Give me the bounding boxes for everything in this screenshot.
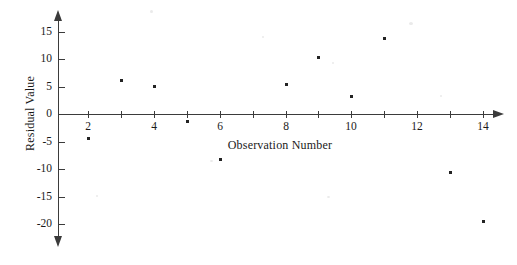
x-tick-mark-4 — [154, 111, 155, 118]
y-tick-mark — [59, 197, 65, 198]
x-tick-mark-8 — [286, 111, 287, 118]
y-tick-mark — [59, 169, 65, 170]
x-tick-mark-3 — [121, 111, 122, 118]
y-tick-label: -15 — [22, 191, 52, 203]
residual-scatter-plot: 15 10 5 0 -5 -10 -15 -20 2 4 6 8 10 12 — [0, 0, 517, 265]
y-tick-mark — [59, 87, 65, 88]
scan-speck — [440, 95, 442, 97]
y-axis-title: Residual Value — [23, 54, 38, 174]
y-tick-mark — [59, 32, 65, 33]
x-tick-mark-9 — [318, 111, 319, 118]
scan-speck — [150, 10, 153, 13]
data-point — [219, 158, 222, 161]
data-point — [317, 56, 320, 59]
x-tick-label-12: 12 — [405, 120, 429, 132]
scan-speck — [262, 36, 264, 38]
data-point — [153, 85, 156, 88]
x-tick-mark-7 — [253, 111, 254, 118]
data-point — [449, 171, 452, 174]
x-axis-right-arrow-icon — [493, 110, 504, 118]
x-tick-label-4: 4 — [142, 120, 166, 132]
x-tick-mark-2 — [88, 111, 89, 118]
x-axis-title: Observation Number — [170, 138, 390, 153]
scan-speck — [409, 22, 413, 25]
y-tick-mark — [59, 224, 65, 225]
data-point — [87, 137, 90, 140]
x-tick-mark-6 — [220, 111, 221, 118]
x-tick-label-14: 14 — [471, 120, 495, 132]
data-point — [285, 83, 288, 86]
y-tick-mark — [59, 142, 65, 143]
y-axis-down-arrow-icon — [54, 236, 62, 247]
data-point — [350, 95, 353, 98]
scan-speck — [210, 160, 213, 162]
x-tick-label-6: 6 — [208, 120, 232, 132]
scan-speck — [332, 62, 334, 64]
x-tick-mark-13 — [450, 111, 451, 118]
x-tick-mark-5 — [187, 111, 188, 118]
scan-speck — [96, 195, 98, 197]
x-tick-label-2: 2 — [76, 120, 100, 132]
y-axis-up-arrow-icon — [54, 10, 62, 21]
y-tick-label: -20 — [22, 218, 52, 230]
x-tick-mark-12 — [417, 111, 418, 118]
x-tick-label-10: 10 — [339, 120, 363, 132]
x-tick-label-8: 8 — [274, 120, 298, 132]
y-tick-mark — [59, 59, 65, 60]
x-axis-line — [58, 114, 495, 115]
x-tick-mark-11 — [384, 111, 385, 118]
y-axis-line — [58, 18, 59, 244]
x-tick-mark-14 — [483, 111, 484, 118]
data-point — [120, 79, 123, 82]
y-tick-label: 15 — [22, 26, 52, 38]
data-point — [383, 37, 386, 40]
x-tick-mark-10 — [351, 111, 352, 118]
data-point — [186, 120, 189, 123]
scan-speck — [327, 196, 330, 198]
data-point — [482, 220, 485, 223]
